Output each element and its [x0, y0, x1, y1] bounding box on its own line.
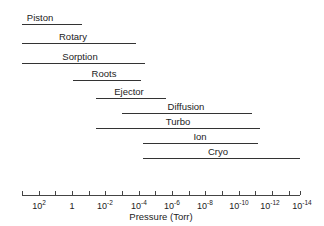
x-tick-label: 10-10	[229, 199, 248, 211]
bar-label-diffusion: Diffusion	[168, 101, 205, 112]
bar-rotary	[22, 43, 136, 44]
bar-piston	[22, 24, 82, 25]
bar-label-roots: Roots	[92, 68, 117, 79]
bar-ion	[143, 143, 258, 144]
bar-label-turbo: Turbo	[166, 116, 190, 127]
bar-label-piston: Piston	[27, 12, 53, 23]
bar-ejector	[96, 98, 166, 99]
bar-turbo	[96, 128, 260, 129]
bar-label-cryo: Cryo	[208, 146, 228, 157]
bar-label-ion: Ion	[193, 131, 206, 142]
x-tick-label: 10-2	[97, 199, 113, 211]
x-tick-label: 10-8	[197, 199, 213, 211]
x-axis-title: Pressure (Torr)	[129, 211, 192, 222]
x-tick-label: 10-6	[164, 199, 180, 211]
bar-diffusion	[122, 113, 252, 114]
x-tick-label: 10-14	[292, 199, 311, 211]
x-tick-label: 1	[69, 199, 74, 211]
bar-sorption	[22, 63, 145, 64]
x-tick-label: 102	[32, 199, 46, 211]
bar-cryo	[143, 158, 300, 159]
x-axis-line	[22, 195, 300, 196]
bar-label-ejector: Ejector	[114, 86, 144, 97]
x-tick-label: 10-4	[131, 199, 147, 211]
x-tick-label: 10-12	[260, 199, 279, 211]
bar-label-sorption: Sorption	[62, 51, 97, 62]
bar-label-rotary: Rotary	[59, 31, 87, 42]
bar-roots	[73, 80, 141, 81]
